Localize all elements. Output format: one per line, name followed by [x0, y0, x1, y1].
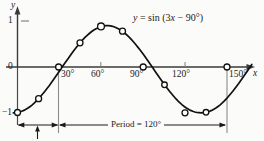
- x-tick-label-90deg: 90°: [130, 70, 143, 80]
- x-tick-label-60deg: 60°: [91, 70, 104, 80]
- equation-remainder: − 90°): [175, 12, 203, 23]
- phase-shift-pointer-arrowhead: [35, 126, 40, 132]
- y-axis-label: y: [11, 1, 15, 11]
- data-point-marker: [98, 23, 105, 30]
- period-arrow-right: [220, 123, 227, 128]
- y-tick-label-0: 0: [8, 62, 13, 72]
- equation-operator: = sin (3: [137, 12, 170, 23]
- x-axis-label: x: [253, 69, 257, 79]
- y-axis-arrowhead: [15, 6, 21, 15]
- x-tick-label-150deg: 150°: [229, 70, 247, 80]
- data-point-marker: [182, 110, 188, 116]
- x-tick-label-30deg: 30°: [61, 70, 74, 80]
- y-tick-label-1: 1: [8, 16, 13, 26]
- phase-shift-arrow-right: [52, 123, 59, 128]
- data-point-marker: [36, 96, 42, 102]
- data-point-marker: [77, 40, 83, 46]
- data-point-marker: [203, 110, 209, 116]
- period-label: Period = 120°: [108, 120, 164, 129]
- data-point-marker: [120, 28, 126, 34]
- equation-label: y = sin (3x − 90°): [133, 13, 203, 23]
- period-arrow-left: [59, 123, 66, 128]
- x-tick-label-120deg: 120°: [172, 70, 190, 80]
- data-point-marker: [162, 82, 168, 88]
- phase-shift-arrow-left: [18, 123, 25, 128]
- trig-graph-figure: y x 1 0 −1 30° 60° 90° 120° 150° y = sin…: [0, 0, 264, 141]
- y-tick-label-minus1: −1: [2, 108, 12, 118]
- data-point-marker: [15, 110, 21, 116]
